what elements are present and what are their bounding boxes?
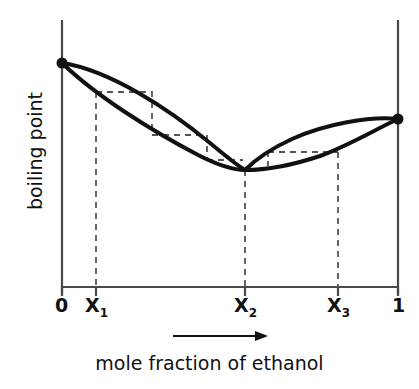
x-tick-label-1: 1 xyxy=(392,296,405,319)
x-tick-label-x2: X2 xyxy=(234,296,257,319)
pure-ethanol-point xyxy=(393,114,404,125)
pure-water-point xyxy=(57,58,68,69)
x-tick-label-x2-text: X xyxy=(234,294,249,316)
y-axis-title: boiling point xyxy=(24,61,46,241)
x-tick-label-1-text: 1 xyxy=(392,294,405,316)
x-tick-label-x1: X1 xyxy=(85,296,108,319)
vapour-curve xyxy=(62,63,398,170)
x-tick-label-x3-text: X xyxy=(327,294,342,316)
x-tick-label-0: 0 xyxy=(55,296,68,319)
phase-diagram-plot xyxy=(0,0,419,389)
x-tick-label-x1-sub: 1 xyxy=(100,306,108,320)
phase-diagram-figure: 0 X1 X2 X3 1 mole fraction of ethanol bo… xyxy=(0,0,419,389)
x-tick-label-x3: X3 xyxy=(327,296,350,319)
x-tick-label-x1-text: X xyxy=(85,294,100,316)
x-direction-arrow xyxy=(173,331,268,341)
x-axis-title: mole fraction of ethanol xyxy=(0,352,419,374)
x-tick-label-x3-sub: 3 xyxy=(342,306,350,320)
x-tick-label-0-text: 0 xyxy=(55,294,68,316)
x-tick-label-x2-sub: 2 xyxy=(249,306,257,320)
